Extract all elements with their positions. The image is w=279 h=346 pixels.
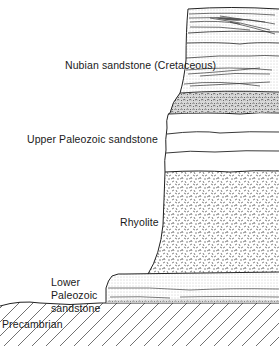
label-line: sandstone — [51, 302, 100, 315]
label-nubian-sandstone: Nubian sandstone (Cretaceous) — [65, 59, 216, 72]
layer-conglomerate — [170, 91, 279, 113]
label-line: Paleozoic — [51, 289, 100, 302]
label-line: Lower — [51, 276, 100, 289]
label-precambrian: Precambrian — [2, 318, 63, 331]
layer-upper-paleozoic-sandstone — [165, 113, 279, 172]
layer-lower-paleozoic-sandstone — [106, 272, 279, 303]
label-lower-paleozoic-sandstone: Lower Paleozoic sandstone — [51, 276, 100, 315]
geologic-cross-section: Nubian sandstone (Cretaceous) Upper Pale… — [0, 0, 279, 346]
cross-section-drawing — [0, 0, 279, 346]
layer-rhyolite — [148, 170, 279, 274]
label-upper-paleozoic-sandstone: Upper Paleozoic sandstone — [27, 133, 158, 146]
label-rhyolite: Rhyolite — [120, 216, 159, 229]
